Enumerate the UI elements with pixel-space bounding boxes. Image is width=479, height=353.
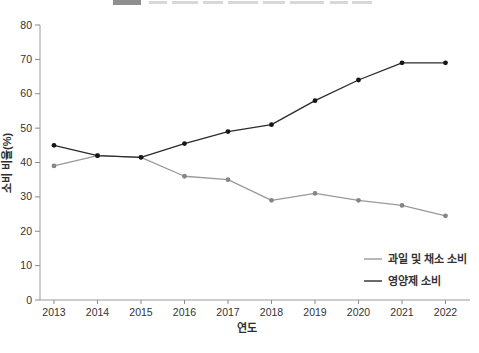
cropped-title-text-fragment [149,1,167,4]
data-point-marker [182,174,187,179]
cropped-legend-swatch [113,0,141,5]
cropped-title-text-fragment [203,1,223,4]
legend-label: 과일 및 채소 소비 [388,252,467,265]
x-tick-label: 2015 [129,306,153,318]
data-point-marker [52,164,57,169]
data-point-marker [400,60,405,65]
y-tick-label: 50 [20,122,32,134]
data-point-marker [95,153,100,158]
y-axis-label: 소비 비율(%) [0,133,13,194]
series-fruit-veg [52,153,448,218]
cropped-title-text-fragment [172,1,198,4]
data-point-marker [226,177,231,182]
y-tick-label: 0 [26,294,32,306]
series-supplement [52,60,448,159]
y-tick-label: 70 [20,53,32,65]
y-tick-label: 60 [20,87,32,99]
data-point-marker [356,78,361,83]
x-tick-label: 2017 [216,306,240,318]
x-tick-label: 2019 [303,306,327,318]
y-tick-label: 20 [20,225,32,237]
x-tick-label: 2021 [390,306,414,318]
data-point-marker [269,198,274,203]
series-line [54,63,446,158]
data-point-marker [356,198,361,203]
cropped-title-text-fragment [352,1,372,4]
y-tick-label: 30 [20,190,32,202]
y-tick-label: 40 [20,156,32,168]
data-point-marker [400,203,405,208]
x-tick-label: 2018 [260,306,284,318]
data-point-marker [443,213,448,218]
x-tick-label: 2014 [86,306,110,318]
cropped-title-text-fragment [290,1,324,4]
x-tick-label: 2013 [42,306,66,318]
line-chart: 0102030405060708020132014201520162017201… [0,0,479,353]
cropped-title-text-fragment [263,1,285,4]
legend-label: 영양제 소비 [388,274,441,287]
data-point-marker [52,143,57,148]
cropped-title-text-fragment [330,1,348,4]
x-axis-label: 연도 [237,321,257,334]
data-point-marker [313,191,318,196]
data-point-marker [269,122,274,127]
cropped-title-remnant [0,0,479,6]
data-point-marker [443,60,448,65]
y-tick-label: 80 [20,19,32,31]
cropped-title-text-fragment [228,1,258,4]
x-tick-label: 2020 [347,306,371,318]
y-tick-label: 10 [20,259,32,271]
data-point-marker [226,129,231,134]
x-tick-label: 2016 [173,306,197,318]
data-point-marker [139,155,144,160]
data-point-marker [182,141,187,146]
chart-figure: 0102030405060708020132014201520162017201… [0,0,479,353]
series-line [54,156,446,216]
data-point-marker [313,98,318,103]
x-tick-label: 2022 [434,306,458,318]
legend: 과일 및 채소 소비영양제 소비 [364,252,467,287]
